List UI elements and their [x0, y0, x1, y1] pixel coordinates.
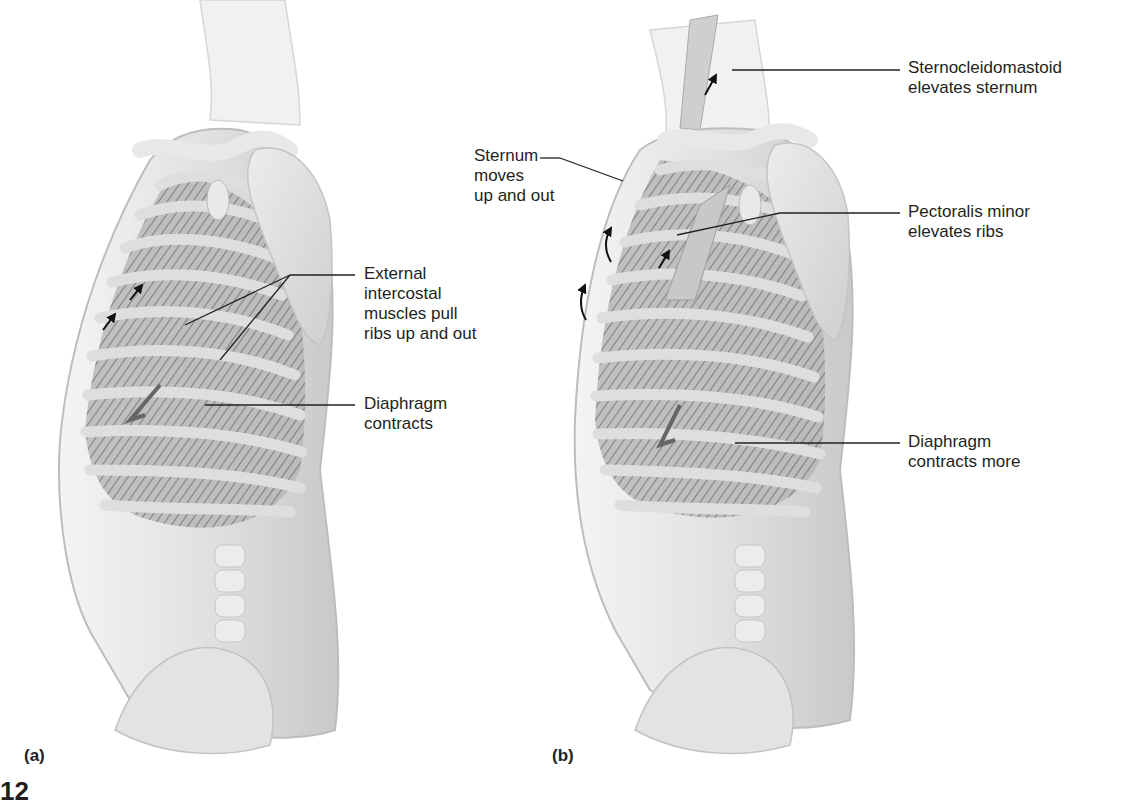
panel-label-a: (a) — [24, 746, 45, 766]
panel-a-illustration — [59, 0, 355, 753]
label-sternum: Sternum moves up and out — [474, 146, 554, 206]
label-sternocleidomastoid: Sternocleidomastoid elevates sternum — [908, 58, 1062, 98]
label-pectoralis-minor: Pectoralis minor elevates ribs — [908, 202, 1030, 242]
figure-number-partial: 12 — [0, 778, 29, 804]
label-external-intercostal: External intercostal muscles pull ribs u… — [364, 264, 476, 344]
panel-label-b: (b) — [552, 746, 574, 766]
panel-b-illustration — [540, 15, 900, 753]
label-diaphragm-contracts-more: Diaphragm contracts more — [908, 432, 1020, 472]
label-diaphragm-contracts: Diaphragm contracts — [364, 394, 447, 434]
